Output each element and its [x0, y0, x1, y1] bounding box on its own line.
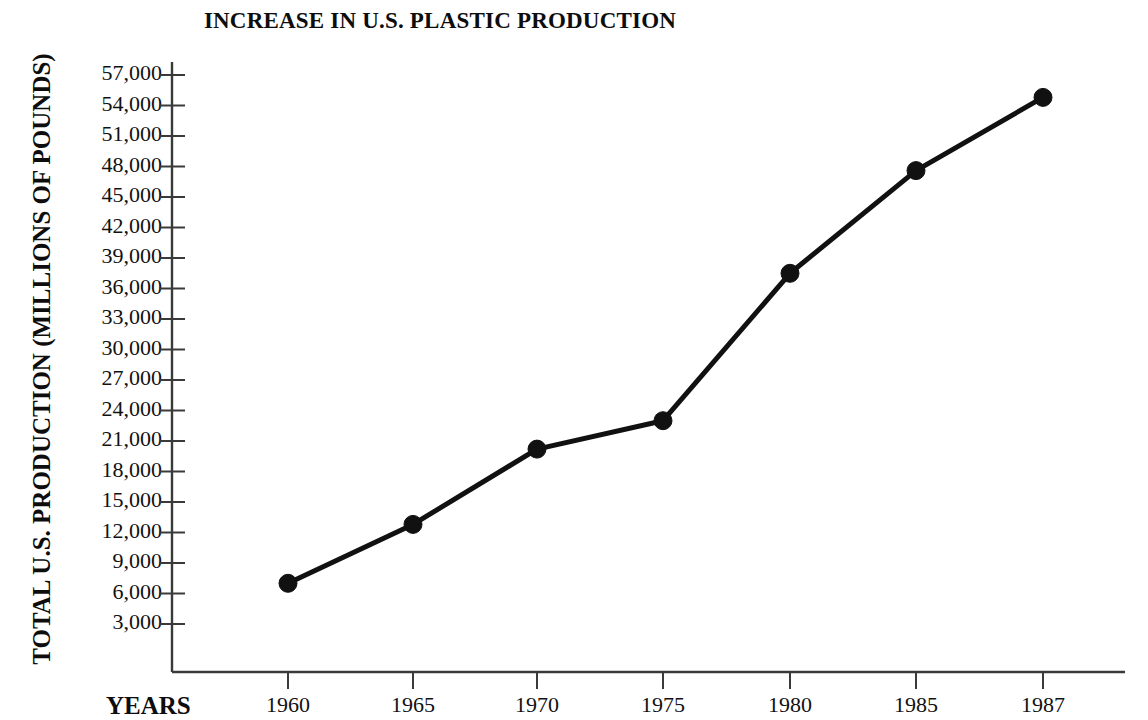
data-point-marker[interactable]: [907, 162, 925, 180]
data-point-marker[interactable]: [404, 515, 422, 533]
data-point-marker[interactable]: [279, 574, 297, 592]
chart-container: INCREASE IN U.S. PLASTIC PRODUCTION TOTA…: [0, 0, 1148, 720]
series-line: [288, 97, 1043, 583]
data-point-marker[interactable]: [1034, 88, 1052, 106]
data-point-marker[interactable]: [781, 264, 799, 282]
data-point-marker[interactable]: [528, 440, 546, 458]
plot-area: [0, 0, 1148, 720]
data-point-marker[interactable]: [654, 412, 672, 430]
